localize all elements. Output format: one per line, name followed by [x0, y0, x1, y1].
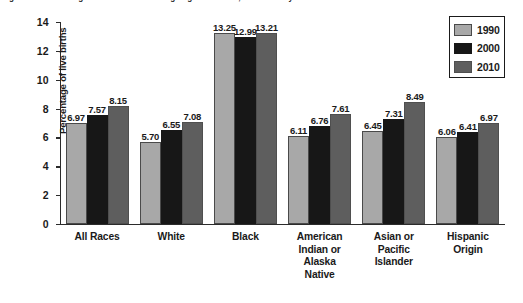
bar-value-label: 6.06	[438, 126, 456, 137]
bar[interactable]: 13.25	[214, 33, 235, 224]
x-axis-label-line: Origin	[431, 244, 505, 257]
y-tick-0: 0	[56, 224, 61, 225]
legend-item-1990: 1990	[454, 21, 504, 40]
bar-value-label: 7.31	[385, 108, 403, 119]
y-tick-label-2: 2	[43, 189, 49, 201]
bar[interactable]: 6.76	[309, 126, 330, 224]
x-axis-label: White	[134, 231, 208, 293]
x-axis-label-line: Asian or	[357, 231, 431, 244]
bar[interactable]: 8.49	[404, 102, 425, 224]
legend-swatch-icon-2010	[454, 61, 472, 73]
y-tick-label-6: 6	[43, 131, 49, 143]
x-axis-label-line: White	[134, 231, 208, 244]
bar[interactable]: 8.15	[108, 106, 129, 224]
bar-value-label: 13.25	[213, 22, 236, 33]
x-axis-label: Black	[208, 231, 282, 293]
bar-groups: 6.977.578.155.706.557.0813.2512.9913.216…	[60, 22, 505, 224]
x-axis-label-line: All Races	[60, 231, 134, 244]
bar[interactable]: 6.06	[436, 137, 457, 224]
legend-swatch-icon-1990	[454, 24, 472, 36]
bar[interactable]: 7.31	[383, 119, 404, 224]
bar-value-label: 13.21	[255, 22, 278, 33]
y-tick-label-10: 10	[37, 74, 49, 86]
legend-label-2000: 2000	[477, 42, 500, 54]
bar-group: 13.2512.9913.21	[208, 22, 282, 224]
bar-group: 5.706.557.08	[134, 22, 208, 224]
chart-figure: Figure 3-5. Percentage of US Live Births…	[0, 0, 523, 303]
bar[interactable]: 6.55	[161, 130, 182, 225]
legend-item-2000: 2000	[454, 39, 504, 58]
bar-value-label: 8.49	[406, 91, 424, 102]
bar[interactable]: 6.45	[362, 131, 383, 224]
bar-group: 6.977.578.15	[60, 22, 134, 224]
y-tick-label-8: 8	[43, 103, 49, 115]
x-axis-label-line: Hispanic	[431, 231, 505, 244]
bar-group: 6.457.318.49	[357, 22, 431, 224]
x-axis-label-line: Indian or	[283, 244, 357, 257]
bar[interactable]: 12.99	[235, 37, 256, 224]
bar-value-label: 6.11	[290, 125, 307, 136]
bars: 6.457.318.49	[357, 22, 431, 224]
plot-area: Percentage of live births 02468101214 6.…	[60, 22, 505, 225]
legend-swatch-icon-2000	[454, 43, 472, 55]
bar[interactable]: 7.61	[330, 114, 351, 224]
x-axis-label-line: Pacific	[357, 244, 431, 257]
x-axis-label-line: Alaska	[283, 256, 357, 269]
bar-value-label: 6.41	[459, 121, 477, 132]
y-tick-label-12: 12	[37, 45, 49, 57]
bars: 6.977.578.15	[60, 22, 134, 224]
x-axis-label: All Races	[60, 231, 134, 293]
y-tick-label-0: 0	[43, 218, 49, 230]
bar[interactable]: 6.11	[288, 136, 309, 224]
bar-value-label: 6.55	[162, 119, 180, 130]
bars: 5.706.557.08	[134, 22, 208, 224]
x-axis-label-line: Native	[283, 269, 357, 282]
x-axis-label-line: American	[283, 231, 357, 244]
chart-legend: 1990 2000 2010	[449, 16, 505, 78]
bar[interactable]: 6.97	[66, 123, 87, 224]
bar[interactable]: 7.08	[182, 122, 203, 224]
bar-value-label: 6.45	[364, 120, 382, 131]
legend-label-1990: 1990	[477, 24, 500, 36]
bar-value-label: 7.57	[88, 104, 106, 115]
bar-value-label: 6.97	[67, 112, 85, 123]
bar[interactable]: 6.41	[457, 132, 478, 224]
bar[interactable]: 5.70	[140, 142, 161, 224]
bar-value-label: 7.08	[183, 111, 201, 122]
bar-group: 6.116.767.61	[283, 22, 357, 224]
y-tick-label-14: 14	[37, 16, 49, 28]
x-axis-label-line: Black	[208, 231, 282, 244]
bars: 6.116.767.61	[283, 22, 357, 224]
x-axis-label: Asian orPacificIslander	[357, 231, 431, 293]
figure-title: Figure 3-5. Percentage of US Live Births…	[2, 0, 521, 2]
legend-item-2010: 2010	[454, 58, 504, 77]
legend-label-2010: 2010	[477, 61, 500, 73]
bars: 13.2512.9913.21	[208, 22, 282, 224]
x-axis-label: HispanicOrigin	[431, 231, 505, 293]
bar-value-label: 6.97	[480, 112, 498, 123]
bar[interactable]: 7.57	[87, 115, 108, 224]
bar[interactable]: 13.21	[256, 33, 277, 224]
bar-value-label: 6.76	[311, 115, 329, 126]
x-axis-label-line: Islander	[357, 256, 431, 269]
y-tick-label-4: 4	[43, 160, 49, 172]
bar-value-label: 8.15	[109, 95, 127, 106]
bar-value-label: 5.70	[141, 131, 159, 142]
bar-value-label: 7.61	[332, 103, 350, 114]
bar[interactable]: 6.97	[478, 123, 499, 224]
x-axis-label: AmericanIndian orAlaskaNative	[283, 231, 357, 293]
bar-value-label: 12.99	[234, 26, 257, 37]
x-axis-labels: All RacesWhiteBlackAmericanIndian orAlas…	[60, 231, 505, 293]
